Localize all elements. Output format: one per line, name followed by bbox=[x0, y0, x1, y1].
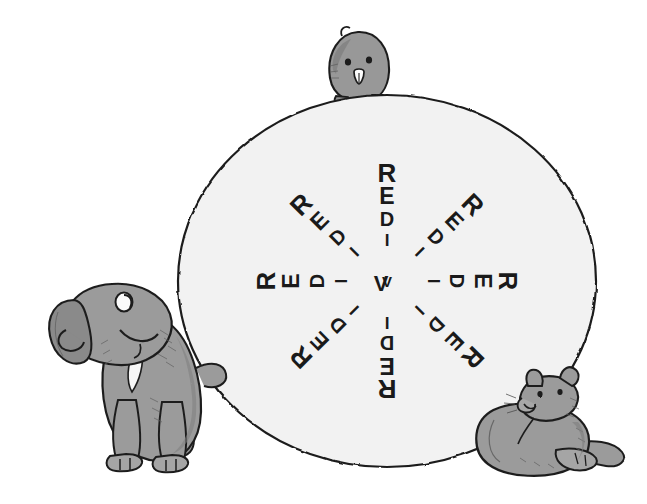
spoke-south-letter-2: I bbox=[385, 313, 390, 332]
spoke-east-letter-5: R bbox=[493, 272, 523, 291]
spoke-north-letter-3: D bbox=[380, 208, 394, 230]
spoke-south-letter-5: R bbox=[377, 374, 396, 404]
center-letter-v: V bbox=[374, 271, 389, 296]
spoke-south-letter-3: D bbox=[380, 332, 394, 354]
spoke-west-letter-2: I bbox=[332, 279, 351, 284]
redivider-illustration: VIDERIDERIDERIDERIDERIDERIDERIDERV bbox=[0, 0, 647, 504]
spoke-north-letter-5: R bbox=[378, 158, 397, 188]
spoke-west-letter-5: R bbox=[251, 271, 281, 290]
illustration-canvas: VIDERIDERIDERIDERIDERIDERIDERIDERV bbox=[0, 0, 647, 504]
spoke-word-group: VIDERIDERIDERIDERIDERIDERIDERIDERV bbox=[251, 158, 524, 404]
spoke-north-letter-2: I bbox=[385, 231, 390, 250]
spoke-east-letter-3: D bbox=[446, 274, 468, 288]
spoke-east-letter-2: I bbox=[424, 279, 443, 284]
spoke-west-letter-3: D bbox=[306, 274, 328, 288]
spoke-east-letter-4: E bbox=[470, 273, 496, 288]
spoke-west-letter-4: E bbox=[278, 273, 304, 288]
